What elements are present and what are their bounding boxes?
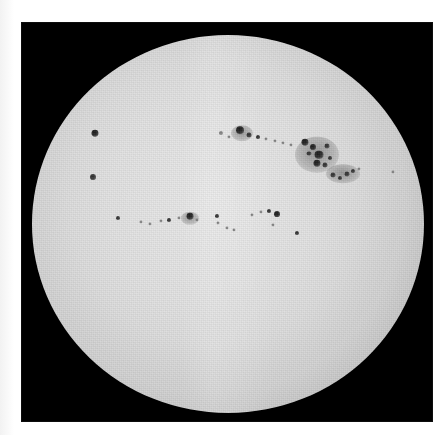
sunspot bbox=[331, 172, 336, 177]
sunspot bbox=[323, 163, 328, 168]
sunspot bbox=[338, 176, 342, 180]
sunspot bbox=[272, 224, 275, 227]
sunspot bbox=[92, 130, 99, 137]
sunspot bbox=[160, 220, 163, 223]
sunspot bbox=[236, 127, 244, 135]
sunspot bbox=[290, 143, 293, 146]
sunspot bbox=[90, 174, 96, 180]
sunspot-penumbra bbox=[295, 136, 339, 173]
sunspot bbox=[116, 216, 120, 220]
solar-disk bbox=[32, 35, 424, 413]
sunspot bbox=[302, 139, 309, 146]
sunspot bbox=[228, 136, 231, 139]
sunspot bbox=[282, 142, 285, 145]
sunspot bbox=[310, 144, 316, 150]
sunspot bbox=[247, 133, 252, 138]
sunspot bbox=[358, 168, 361, 171]
sunspot-penumbra bbox=[231, 126, 253, 141]
sunspot bbox=[215, 214, 219, 218]
sunspot bbox=[328, 157, 332, 161]
sunspot bbox=[140, 221, 143, 224]
sunspot bbox=[149, 223, 152, 226]
sunspot-penumbra bbox=[326, 164, 360, 183]
sunspot bbox=[226, 226, 229, 229]
sunspot bbox=[274, 140, 277, 143]
sunspot bbox=[217, 222, 220, 225]
sunspot bbox=[307, 151, 312, 156]
sunspot bbox=[267, 210, 271, 214]
sunspot bbox=[233, 228, 236, 231]
sunspot bbox=[265, 138, 268, 141]
sunspot bbox=[256, 135, 260, 139]
sunspot bbox=[315, 150, 324, 159]
sunspot bbox=[251, 214, 254, 217]
sunspot bbox=[187, 213, 194, 220]
sunspot-penumbra bbox=[181, 212, 199, 225]
sunspot bbox=[351, 169, 355, 173]
solar-photograph-figure: White-light photograph of the solar disk… bbox=[0, 0, 447, 435]
sunspot bbox=[178, 217, 181, 220]
photographic-grain bbox=[32, 35, 424, 413]
sunspot bbox=[392, 170, 395, 173]
sunspot bbox=[314, 160, 321, 167]
sunspot bbox=[219, 131, 223, 135]
sunspot bbox=[274, 211, 280, 217]
sunspot bbox=[345, 171, 350, 176]
sunspot bbox=[325, 143, 330, 148]
sunspot bbox=[260, 211, 263, 214]
sunspot bbox=[295, 231, 299, 235]
plate-brightness-band bbox=[32, 35, 424, 413]
photographic-plate bbox=[21, 22, 433, 422]
sunspot bbox=[196, 219, 199, 222]
sunspot bbox=[167, 218, 171, 222]
